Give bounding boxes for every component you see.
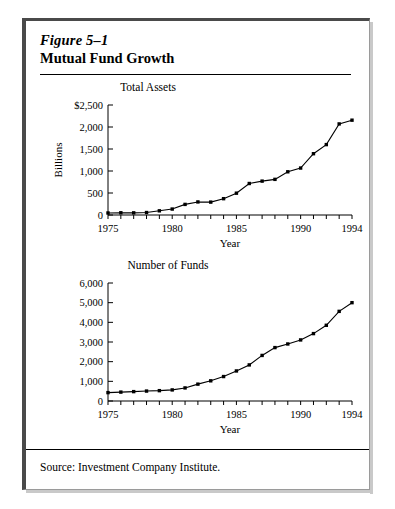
data-point [132, 390, 135, 393]
data-point [119, 211, 122, 214]
data-point [299, 338, 302, 341]
data-point [222, 197, 225, 200]
data-point [132, 211, 135, 214]
chart-title: Total Assets [120, 81, 176, 93]
data-line [108, 120, 352, 213]
data-point [196, 382, 199, 385]
data-point [273, 346, 276, 349]
data-point [235, 369, 238, 372]
data-point [171, 207, 174, 210]
figure-shadow-bottom [26, 490, 373, 493]
data-line [108, 303, 352, 393]
x-tick-label: 1994 [342, 223, 364, 234]
data-point [158, 209, 161, 212]
x-tick-label: 1985 [226, 409, 247, 420]
x-tick-label: 1980 [162, 409, 183, 420]
data-point [350, 301, 353, 304]
data-point [209, 200, 212, 203]
data-point [312, 152, 315, 155]
x-tick-label: 1994 [342, 409, 364, 420]
source-divider [26, 449, 369, 450]
data-point [119, 390, 122, 393]
chart-number-of-funds: Number of Funds01,0002,0003,0004,0005,00… [26, 251, 369, 437]
chart-total-assets: Total Assets05001,0001,5002,000$2,500197… [26, 75, 369, 251]
x-tick-label: 1990 [290, 223, 311, 234]
data-point [325, 324, 328, 327]
data-point [260, 179, 263, 182]
data-point [209, 379, 212, 382]
y-tick-label: 0 [98, 396, 103, 407]
figure-header: Figure 5–1 Mutual Fund Growth [26, 21, 369, 75]
data-point [183, 386, 186, 389]
y-tick-label: 4,000 [79, 317, 103, 328]
data-point [286, 342, 289, 345]
data-point [196, 200, 199, 203]
figure-frame: Figure 5–1 Mutual Fund Growth Total Asse… [22, 18, 370, 490]
data-point [171, 388, 174, 391]
data-point [273, 178, 276, 181]
figure-number: Figure 5–1 [40, 32, 353, 49]
y-tick-label: 0 [98, 210, 103, 221]
data-point [337, 310, 340, 313]
source-note: Source: Investment Company Institute. [40, 461, 220, 473]
y-tick-label: 2,000 [79, 356, 103, 367]
x-tick-label: 1980 [162, 223, 183, 234]
data-point [248, 363, 251, 366]
data-point [325, 143, 328, 146]
x-tick-label: 1975 [98, 409, 119, 420]
data-point [260, 354, 263, 357]
data-point [337, 122, 340, 125]
data-point [106, 391, 109, 394]
figure-shadow-right [370, 22, 373, 494]
y-tick-label: 1,000 [79, 376, 103, 387]
y-tick-label: 1,000 [79, 166, 103, 177]
data-point [286, 170, 289, 173]
y-axis-label: Billions [52, 143, 64, 178]
y-tick-label: 1,500 [79, 144, 103, 155]
data-point [106, 211, 109, 214]
x-tick-label: 1975 [98, 223, 119, 234]
y-tick-label: 5,000 [79, 297, 103, 308]
y-tick-label: $2,500 [74, 100, 103, 111]
y-tick-label: 6,000 [79, 278, 103, 289]
y-tick-label: 3,000 [79, 337, 103, 348]
data-point [248, 182, 251, 185]
x-axis-label: Year [220, 237, 241, 249]
data-point [312, 332, 315, 335]
page-title: Mutual Fund Growth [40, 49, 353, 67]
x-tick-label: 1985 [226, 223, 247, 234]
data-point [183, 203, 186, 206]
y-tick-label: 500 [87, 188, 103, 199]
x-axis-label: Year [220, 423, 241, 435]
data-point [222, 375, 225, 378]
data-point [158, 389, 161, 392]
data-point [145, 389, 148, 392]
chart-title: Number of Funds [127, 259, 209, 271]
data-point [145, 211, 148, 214]
number-of-funds-plot: Number of Funds01,0002,0003,0004,0005,00… [26, 251, 369, 437]
data-point [235, 191, 238, 194]
data-point [299, 166, 302, 169]
total-assets-plot: Total Assets05001,0001,5002,000$2,500197… [26, 75, 369, 251]
x-tick-label: 1990 [290, 409, 311, 420]
data-point [350, 118, 353, 121]
y-tick-label: 2,000 [79, 122, 103, 133]
